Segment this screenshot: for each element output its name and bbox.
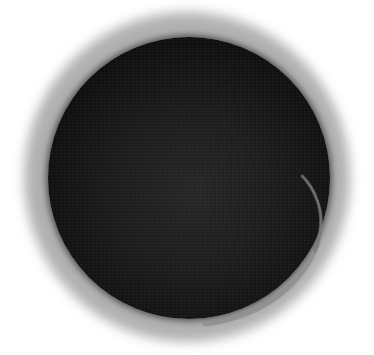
photo-scene — [0, 0, 374, 355]
